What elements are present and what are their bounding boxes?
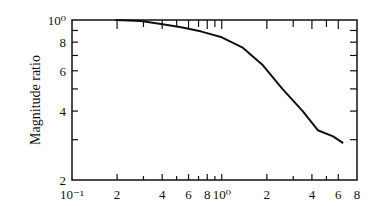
y-tick-label: 4 — [60, 104, 67, 119]
x-tick-label: 8 — [354, 187, 361, 202]
x-tick-label: 8 — [204, 187, 211, 202]
y-tick-label: 6 — [60, 64, 67, 79]
x-tick-label: 10⁻¹ — [60, 187, 84, 202]
magnitude-curve — [115, 20, 343, 143]
axis-ticks — [72, 20, 357, 180]
x-tick-label: 10⁰ — [213, 187, 231, 202]
y-tick-label: 10⁰ — [48, 13, 66, 28]
magnitude-ratio-chart: 10⁻¹246810⁰246810⁰8642 Magnitude ratio — [0, 0, 381, 206]
y-tick-label: 2 — [60, 173, 67, 188]
x-tick-label: 6 — [185, 187, 192, 202]
x-tick-label: 4 — [159, 187, 166, 202]
x-tick-label: 4 — [309, 187, 316, 202]
tick-labels: 10⁻¹246810⁰246810⁰8642 — [48, 13, 360, 202]
plot-border — [72, 20, 357, 180]
x-tick-label: 2 — [264, 187, 271, 202]
x-tick-label: 2 — [114, 187, 121, 202]
y-tick-label: 8 — [60, 35, 67, 50]
y-axis-label: Magnitude ratio — [28, 55, 43, 145]
plot-frame — [72, 20, 357, 180]
x-tick-label: 6 — [335, 187, 342, 202]
